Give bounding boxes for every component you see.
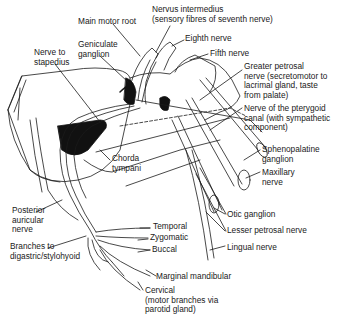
label-lingual-nerve: Lingual nerve [227, 243, 277, 253]
label-greater-petrosal-nerve: Greater petrosal nerve (secretomotor to … [244, 62, 327, 100]
label-maxillary-nerve: Maxillary nerve [262, 168, 295, 187]
label-marginal-mandibular: Marginal mandibular [156, 272, 231, 282]
label-chorda-tympani: Chorda tympani [112, 154, 141, 173]
label-eighth-nerve: Eighth nerve [185, 34, 232, 44]
lingual-nerve-path [186, 150, 214, 260]
label-cervical: Cervical (motor branches via parotid gla… [145, 286, 218, 315]
facial-branches [96, 228, 150, 290]
internal-dark-region [58, 120, 106, 155]
label-nervus-intermedius: Nervus intermedius (sensory fibres of se… [152, 5, 273, 24]
label-lesser-petrosal-nerve: Lesser petrosal nerve [227, 226, 307, 236]
label-fifth-nerve: Fifth nerve [210, 49, 249, 59]
label-temporal: Temporal [153, 222, 187, 232]
label-nerve-pterygoid-canal: Nerve of the pterygoid canal (with sympa… [244, 104, 330, 133]
label-geniculate-ganglion: Geniculate ganglion [78, 40, 118, 59]
label-buccal: Buccal [152, 245, 177, 255]
label-otic-ganglion: Otic ganglion [227, 210, 275, 220]
label-nerve-to-stapedius: Nerve to stapedius [34, 48, 70, 67]
label-branches-digastric: Branches to digastric/stylohyoid [10, 242, 80, 261]
geniculate-ganglion-shape [124, 78, 136, 105]
label-zygomatic: Zygomatic [150, 233, 188, 243]
label-sphenopalatine-ganglion: Sphenopalatine ganglion [262, 145, 320, 164]
label-posterior-auricular-nerve: Posterior auricular nerve [12, 206, 45, 235]
chorda-tympani-path [84, 140, 220, 172]
label-main-motor-root: Main motor root [78, 17, 136, 27]
